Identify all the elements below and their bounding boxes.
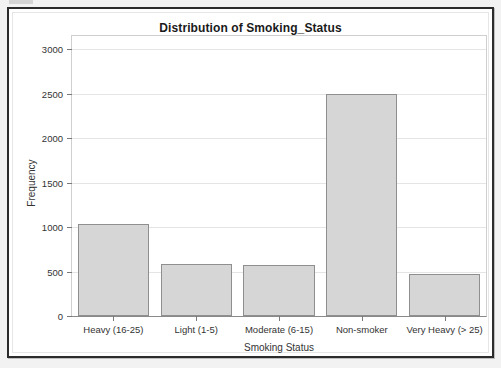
chart-canvas: Distribution of Smoking_Status Frequency…	[12, 12, 489, 353]
y-tick-label: 500	[47, 266, 63, 277]
y-tick-label: 1500	[42, 177, 63, 188]
bar	[243, 265, 314, 316]
y-tick-mark	[67, 138, 72, 139]
chart-frame: Distribution of Smoking_Status Frequency…	[7, 7, 494, 358]
y-tick-mark	[67, 316, 72, 317]
bar	[326, 94, 397, 316]
x-tick-label: Light (1-5)	[175, 324, 218, 335]
cropped-toolbar-mark	[9, 0, 33, 4]
y-tick-mark	[67, 227, 72, 228]
y-tick-label: 1000	[42, 222, 63, 233]
x-tick-mark	[196, 316, 197, 321]
chart-window: Distribution of Smoking_Status Frequency…	[0, 0, 501, 368]
x-tick-mark	[362, 316, 363, 321]
bar	[409, 274, 480, 316]
y-tick-label: 2000	[42, 133, 63, 144]
x-tick-mark	[445, 316, 446, 321]
y-tick-mark	[67, 49, 72, 50]
x-tick-mark	[113, 316, 114, 321]
x-tick-mark	[279, 316, 280, 321]
plot-area: 050010001500200025003000 Heavy (16-25)Li…	[71, 35, 487, 317]
y-tick-mark	[67, 183, 72, 184]
gridline	[72, 183, 486, 184]
y-tick-label: 0	[58, 311, 63, 322]
x-tick-label: Moderate (6-15)	[245, 324, 313, 335]
gridline	[72, 94, 486, 95]
gridline	[72, 49, 486, 50]
y-tick-label: 2500	[42, 88, 63, 99]
gridline	[72, 138, 486, 139]
bar	[161, 264, 232, 316]
chart-title: Distribution of Smoking_Status	[13, 21, 488, 35]
x-tick-label: Very Heavy (> 25)	[406, 324, 482, 335]
bar	[78, 224, 149, 316]
y-tick-mark	[67, 94, 72, 95]
x-tick-label: Heavy (16-25)	[83, 324, 143, 335]
x-tick-label: Non-smoker	[336, 324, 388, 335]
x-axis-title: Smoking Status	[72, 342, 486, 353]
y-tick-mark	[67, 272, 72, 273]
cropped-toolbar-strip	[0, 0, 501, 7]
y-tick-label: 3000	[42, 44, 63, 55]
y-axis-title: Frequency	[26, 159, 37, 206]
